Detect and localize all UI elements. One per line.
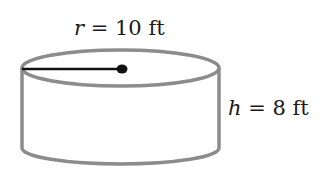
height-label: h = 8 ft <box>228 96 309 120</box>
center-point <box>117 65 128 74</box>
radius-label: r = 10 ft <box>74 16 165 40</box>
cylinder-bottom-arc <box>22 148 219 164</box>
cylinder-diagram: r = 10 ft h = 8 ft <box>0 0 328 170</box>
